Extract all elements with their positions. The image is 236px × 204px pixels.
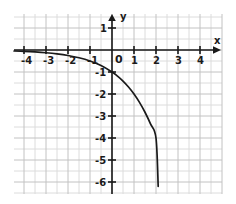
major-gridlines: [14, 14, 222, 194]
y-tick-label--1: -1: [95, 68, 106, 78]
minor-gridlines: [14, 14, 222, 194]
y-axis-label: y: [120, 12, 127, 22]
y-tick-label--3: -3: [95, 112, 106, 122]
x-tick-label-3: 3: [175, 56, 182, 66]
y-tick-label--2: -2: [95, 90, 106, 100]
x-tick-label--2: -2: [65, 56, 76, 66]
y-tick-label-1: 1: [100, 24, 107, 34]
origin-label: 0: [115, 54, 123, 65]
x-tick-label-1: 1: [131, 56, 138, 66]
x-tick-label--4: -4: [21, 56, 32, 66]
y-tick-label--4: -4: [95, 134, 106, 144]
x-tick-label-2: 2: [153, 56, 160, 66]
x-tick-label-4: 4: [197, 56, 204, 66]
coordinate-plane: [0, 0, 236, 204]
y-tick-label--5: -5: [95, 156, 106, 166]
x-tick-label--1: -1: [87, 56, 98, 66]
function-curve: [14, 51, 158, 186]
axes: [14, 14, 221, 194]
x-tick-label--3: -3: [43, 56, 54, 66]
y-tick-label--6: -6: [95, 178, 106, 188]
graph-figure: -4 -3 -2 -1 1 2 3 4 0 1 -1 -2 -3 -4 -5 -…: [0, 0, 236, 204]
x-axis-label: x: [214, 36, 220, 46]
